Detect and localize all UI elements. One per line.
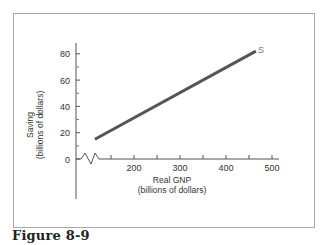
x-ticks: 200300400500 — [111, 155, 280, 173]
x-axis-break-icon — [76, 153, 99, 164]
x-tick-label: 200 — [126, 163, 141, 173]
y-tick-label: 40 — [60, 102, 70, 112]
x-tick-label: 300 — [172, 163, 187, 173]
saving-chart: 020406080 200300400500 S Saving (billion… — [0, 0, 325, 245]
y-tick-label: 20 — [60, 128, 70, 138]
y-axis-title: Saving — [25, 112, 35, 138]
series-label: S — [258, 45, 264, 55]
y-axis-subtitle: (billions of dollars) — [35, 91, 45, 160]
y-tick-label: 60 — [60, 76, 70, 86]
x-tick-label: 500 — [264, 163, 279, 173]
x-axis-subtitle: (billions of dollars) — [138, 185, 207, 195]
x-axis-title: Real GNP — [153, 175, 192, 185]
saving-line — [95, 51, 256, 139]
y-ticks: 020406080 — [60, 49, 80, 164]
y-tick-label: 0 — [65, 155, 70, 165]
x-tick-label: 400 — [218, 163, 233, 173]
y-tick-label: 80 — [60, 49, 70, 59]
figure-caption: Figure 8-9 — [12, 228, 90, 243]
